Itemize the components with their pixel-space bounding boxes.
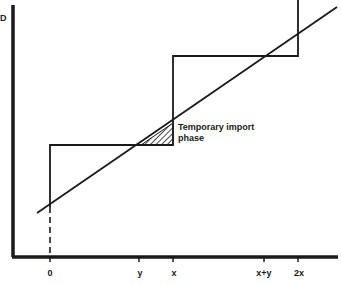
tick-label-x: x [171, 268, 176, 278]
temporary-import-area [141, 123, 173, 145]
annotation-line-1: Temporary import [178, 122, 254, 132]
annotation-line-2: phase [178, 133, 204, 143]
step-function-line [50, 0, 298, 207]
y-axis-label: D [0, 13, 7, 23]
step-function-diagram: D 0 y x x+y 2x Temporary import phase [0, 0, 342, 285]
tick-label-0: 0 [47, 268, 52, 278]
tick-label-x-plus-y: x+y [256, 268, 271, 278]
tick-label-y: y [137, 268, 142, 278]
diagonal-trend-line [37, 7, 337, 213]
tick-label-2x: 2x [294, 268, 304, 278]
